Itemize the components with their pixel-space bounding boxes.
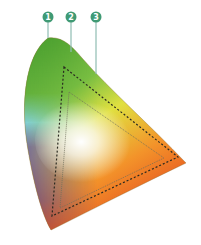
- callout-3-label: 3: [93, 13, 99, 22]
- callout-1-badge: 1: [43, 12, 54, 23]
- callout-2-badge: 2: [66, 12, 77, 23]
- callout-1-label: 1: [45, 13, 51, 22]
- callout-3-badge: 3: [91, 12, 102, 23]
- callout-2-label: 2: [68, 13, 74, 22]
- spectral-locus-area: [0, 0, 201, 245]
- cie-chromaticity-diagram: 1 2 3: [0, 0, 201, 245]
